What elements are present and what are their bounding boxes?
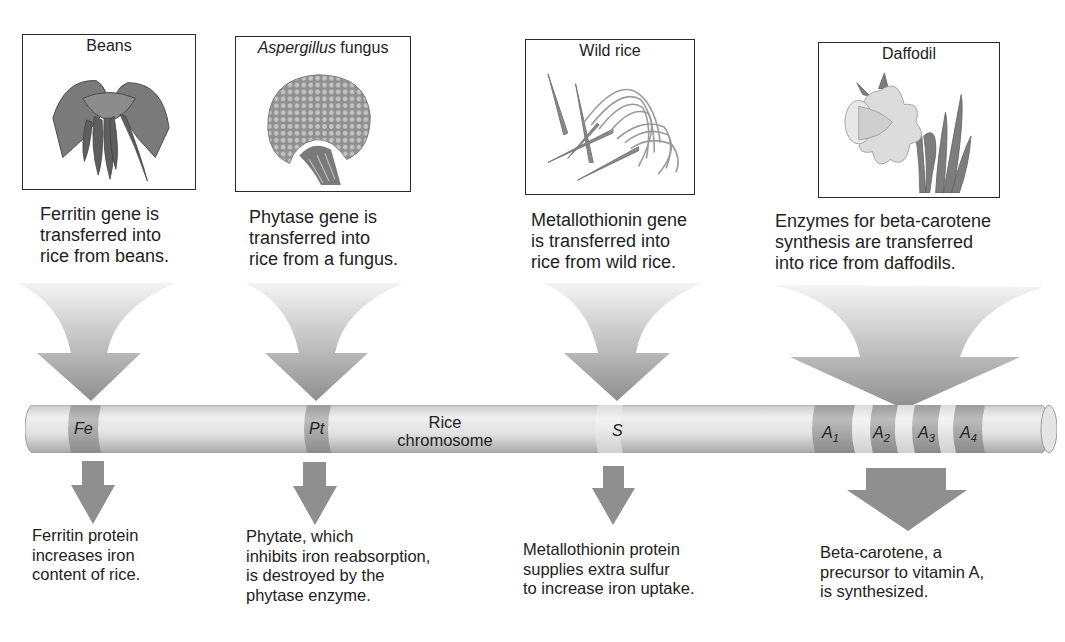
chromosome-label: Rice chromosome (385, 413, 505, 449)
source-title-plain: fungus (336, 39, 388, 56)
source-title-italic: Aspergillus (258, 39, 336, 56)
description-aspergillus: Phytase gene is transferred into rice fr… (249, 207, 398, 270)
aspergillus-fungus-icon (236, 61, 410, 187)
source-title-daffodil: Daffodil (819, 45, 999, 63)
gene-label-s: S (612, 422, 623, 440)
source-title-wild-rice: Wild rice (526, 42, 694, 60)
funnel-arrow-daffodil (770, 285, 1050, 411)
source-title-aspergillus: Aspergillus fungus (236, 39, 410, 57)
source-box-wild-rice: Wild rice (525, 39, 695, 195)
source-box-daffodil: Daffodil (818, 42, 1000, 198)
gene-label-a4: A4 (960, 424, 977, 444)
source-box-beans: Beans (22, 34, 196, 190)
gene-label-pt: Pt (309, 420, 324, 438)
result-aspergillus: Phytate, which inhibits iron reabsorptio… (246, 527, 430, 605)
down-arrow-aspergillus (292, 462, 338, 526)
result-daffodil: Beta-carotene, a precursor to vitamin A,… (820, 543, 984, 602)
result-wild-rice: Metallothionin protein supplies extra su… (523, 540, 695, 599)
description-wild-rice: Metallothionin gene is transferred into … (531, 210, 687, 273)
gene-label-a2: A2 (873, 424, 890, 444)
result-beans: Ferritin protein increases iron content … (32, 526, 140, 585)
funnel-arrow-beans (15, 283, 180, 403)
beans-plant-icon (23, 59, 195, 185)
rice-chromosome (25, 405, 1057, 453)
down-arrow-daffodil (846, 468, 968, 532)
description-daffodil: Enzymes for beta-carotene synthesis are … (775, 211, 991, 274)
description-beans: Ferritin gene is transferred into rice f… (40, 204, 169, 267)
gene-label-a1: A1 (822, 424, 839, 444)
daffodil-flower-icon (819, 67, 999, 193)
source-title-beans: Beans (23, 37, 195, 55)
wild-rice-plant-icon (526, 64, 694, 190)
funnel-arrow-wild-rice (542, 283, 707, 403)
funnel-arrow-aspergillus (243, 283, 408, 403)
gene-label-fe: Fe (74, 420, 93, 438)
gene-label-a3: A3 (918, 424, 935, 444)
down-arrow-beans (70, 461, 116, 525)
down-arrow-wild-rice (591, 466, 637, 526)
source-box-aspergillus: Aspergillus fungus (235, 36, 411, 192)
